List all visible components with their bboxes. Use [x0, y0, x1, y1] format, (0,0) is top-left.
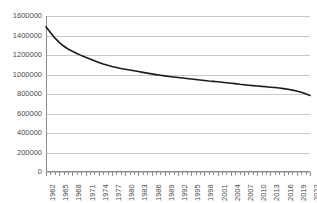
x-axis-tick [279, 172, 280, 175]
series-line [46, 16, 310, 172]
x-axis-tick-label: 1983 [141, 184, 149, 201]
x-axis-tick [196, 172, 197, 175]
x-axis-tick [187, 172, 188, 175]
y-axis-tick-label: 0 [0, 168, 42, 176]
x-axis-tick [147, 172, 148, 175]
x-axis-tick [200, 172, 201, 175]
x-axis-tick [235, 172, 236, 175]
x-axis-tick [81, 172, 82, 175]
x-axis-tick [94, 172, 95, 175]
x-axis-tick-label: 1995 [194, 184, 202, 201]
line-chart: 0200000400000600000800000100000012000001… [0, 0, 317, 203]
x-axis-tick-label: 1968 [75, 184, 83, 201]
y-axis-tick-label: 800000 [0, 90, 42, 98]
x-axis-tick [121, 172, 122, 175]
y-axis-tick-label: 200000 [0, 149, 42, 157]
x-axis-tick [55, 172, 56, 175]
y-axis-tick-label: 600000 [0, 110, 42, 118]
x-axis-tick [288, 172, 289, 175]
x-axis-tick [306, 172, 307, 175]
x-axis-tick [77, 172, 78, 175]
x-axis-tick [90, 172, 91, 175]
plot-area [46, 16, 310, 172]
x-axis-tick [156, 172, 157, 175]
x-axis-tick [68, 172, 69, 175]
x-axis-tick [209, 172, 210, 175]
x-axis-tick [213, 172, 214, 175]
x-axis-tick [262, 172, 263, 175]
x-axis-tick-label: 1989 [168, 184, 176, 201]
x-axis-tick-label: 1980 [128, 184, 136, 201]
y-axis-labels: 0200000400000600000800000100000012000001… [0, 16, 44, 172]
x-axis-tick [64, 172, 65, 175]
x-axis-tick [240, 172, 241, 175]
x-axis-tick [301, 172, 302, 175]
x-axis-tick [160, 172, 161, 175]
x-axis-tick [248, 172, 249, 175]
x-axis-tick-label: 2013 [273, 184, 281, 201]
x-axis-tick-label: 1971 [89, 184, 97, 201]
x-axis-tick-label: 2019 [300, 184, 308, 201]
x-axis-tick [222, 172, 223, 175]
x-axis-tick [169, 172, 170, 175]
x-axis-tick-label: 1986 [155, 184, 163, 201]
x-axis-tick [143, 172, 144, 175]
y-axis-tick-label: 400000 [0, 129, 42, 137]
x-axis-tick [108, 172, 109, 175]
x-axis-tick [50, 172, 51, 175]
x-axis-tick [182, 172, 183, 175]
x-axis-tick-label: 1998 [207, 184, 215, 201]
x-axis-tick [116, 172, 117, 175]
x-axis-tick [130, 172, 131, 175]
x-axis-tick-label: 2001 [221, 184, 229, 201]
x-axis-tick [134, 172, 135, 175]
x-axis-tick [103, 172, 104, 175]
x-axis-tick-label: 2016 [287, 184, 295, 201]
x-axis-tick-label: 2010 [260, 184, 268, 201]
x-axis-labels: 1962196519681971197419771980198319861989… [46, 176, 310, 203]
x-axis-tick [226, 172, 227, 175]
x-axis-tick [266, 172, 267, 175]
x-axis-tick-label: 1965 [62, 184, 70, 201]
x-axis-tick [310, 172, 311, 176]
chart-title [0, 0, 317, 3]
x-axis-tick-label: 2004 [234, 184, 242, 201]
x-axis-tick-label: 1977 [115, 184, 123, 201]
y-axis-tick-label: 1200000 [0, 51, 42, 59]
y-axis-tick-label: 1600000 [0, 12, 42, 20]
x-axis-tick-label: 2022 [313, 184, 317, 201]
x-axis-tick [174, 172, 175, 175]
x-axis-tick-label: 1962 [49, 184, 57, 201]
y-axis-tick-label: 1000000 [0, 71, 42, 79]
x-axis-tick-label: 1974 [102, 184, 110, 201]
x-axis-tick-label: 2007 [247, 184, 255, 201]
x-axis-tick [275, 172, 276, 175]
x-axis-tick-label: 1992 [181, 184, 189, 201]
x-axis-tick [253, 172, 254, 175]
x-axis-tick [292, 172, 293, 175]
y-axis-tick-label: 1400000 [0, 32, 42, 40]
